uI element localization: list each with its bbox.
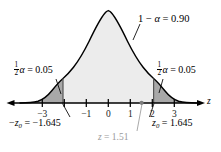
lower-critical-value: −1.645 — [33, 117, 61, 128]
test-statistic-value: 1.51 — [112, 132, 129, 142]
confidence-level-label: 1 − α = 0.90 — [138, 14, 189, 25]
tick-label-1: 1 — [125, 110, 135, 120]
tick-label-0: 0 — [103, 110, 113, 120]
confidence-eq: = — [160, 13, 171, 24]
axis-arrow-left — [7, 100, 15, 106]
confidence-lead: 1 − — [138, 13, 154, 24]
one-half-fraction: 12 — [14, 62, 19, 78]
lower-critical-value-label: −z0 = −1.645 — [9, 118, 61, 130]
test-statistic-marker — [140, 101, 144, 105]
test-statistic-leader-line — [137, 104, 142, 131]
confidence-leader-line — [133, 24, 140, 40]
lower-critical-leader-line — [63, 104, 71, 118]
left-tail-area-label: 12α = 0.05 — [14, 62, 53, 78]
test-statistic-label: z = 1.51 — [98, 133, 128, 143]
z-axis-label: z — [207, 97, 211, 107]
upper-critical-value: 1.645 — [170, 117, 193, 128]
upper-critical-value-label: z0 = 1.645 — [152, 118, 192, 130]
right-tail-area-label: 12α = 0.05 — [157, 62, 196, 78]
upper-critical-eq: = — [159, 117, 170, 128]
confidence-value: 0.90 — [171, 13, 189, 24]
normal-distribution-figure: 1 − α = 0.90 12α = 0.05 12α = 0.05 −3 −1… — [0, 0, 221, 152]
left-tail-value: 0.05 — [35, 64, 53, 75]
right-tail-value: 0.05 — [178, 64, 196, 75]
right-tail-eq: = — [168, 64, 179, 75]
lower-critical-eq: = — [22, 117, 33, 128]
one-half-fraction: 12 — [157, 62, 162, 78]
axis-arrow-right — [197, 100, 205, 106]
tick-label-neg1: −1 — [80, 110, 92, 120]
left-tail-eq: = — [25, 64, 36, 75]
test-statistic-eq: = — [102, 132, 112, 142]
